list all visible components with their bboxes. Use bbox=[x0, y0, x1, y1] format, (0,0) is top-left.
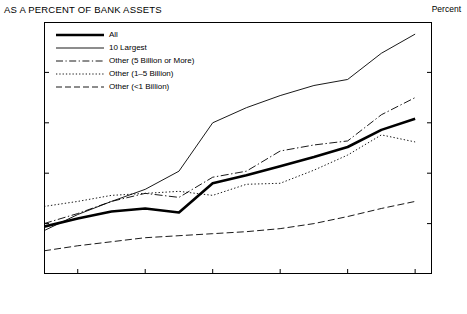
legend-item: All bbox=[56, 28, 194, 41]
legend-label: Other (1–5 Billion) bbox=[109, 69, 173, 78]
series-line-all bbox=[44, 119, 415, 227]
legend-label: 10 Largest bbox=[109, 43, 147, 52]
y-axis-unit-label: Percent bbox=[432, 4, 461, 14]
series-line-other-5-billion-or-more bbox=[44, 98, 415, 224]
legend-item: Other (5 Billion or More) bbox=[56, 54, 194, 67]
legend-label: Other (5 Billion or More) bbox=[109, 56, 194, 65]
legend-item: Other (1–5 Billion) bbox=[56, 67, 194, 80]
legend-key-other-5b-or-more bbox=[56, 55, 104, 67]
series-line-other-1-billion bbox=[44, 201, 415, 250]
chart-legend: All 10 Largest Other (5 Billion or More)… bbox=[56, 28, 194, 93]
legend-key-other-under-1b bbox=[56, 81, 104, 93]
legend-key-10-largest bbox=[56, 42, 104, 54]
legend-label: All bbox=[109, 30, 118, 39]
chart-figure: AS A PERCENT OF BANK ASSETS Percent 0.50… bbox=[0, 0, 467, 314]
legend-item: Other (<1 Billion) bbox=[56, 80, 194, 93]
series-line-other-1-5-billion bbox=[44, 135, 415, 207]
legend-item: 10 Largest bbox=[56, 41, 194, 54]
chart-title: AS A PERCENT OF BANK ASSETS bbox=[4, 4, 162, 15]
legend-key-all bbox=[56, 29, 104, 41]
legend-label: Other (<1 Billion) bbox=[109, 82, 169, 91]
legend-key-other-1-5b bbox=[56, 68, 104, 80]
